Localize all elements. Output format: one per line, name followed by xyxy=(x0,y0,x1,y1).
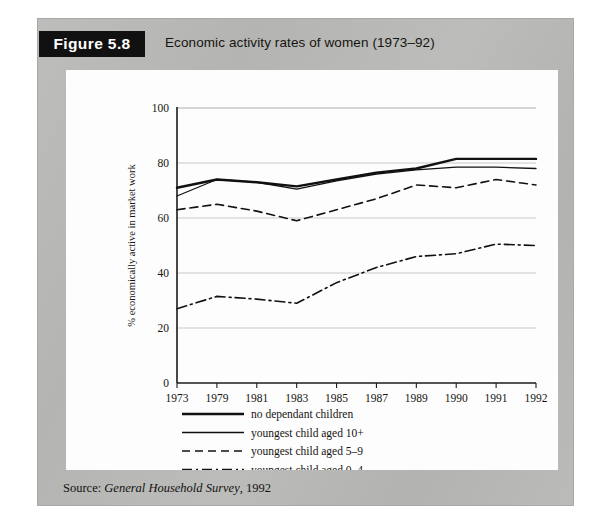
x-tick-label: 1989 xyxy=(405,392,428,404)
x-tick-label: 1985 xyxy=(325,392,348,404)
y-tick-label: 0 xyxy=(163,377,169,389)
y-tick-label: 20 xyxy=(158,322,170,334)
figure-caption: Economic activity rates of women (1973–9… xyxy=(165,35,435,50)
source-note: Source: General Household Survey, 1992 xyxy=(63,481,271,496)
legend-label: youngest child aged 10+ xyxy=(251,427,364,440)
y-tick-label: 60 xyxy=(158,212,170,224)
chart-y-axis-title: % economically active in market work xyxy=(126,164,137,327)
legend-label: youngest child aged 5–9 xyxy=(251,445,363,458)
source-prefix: Source: xyxy=(63,481,104,495)
chart-y-tick-labels: 020406080100 xyxy=(152,102,170,389)
x-tick-label: 1987 xyxy=(365,392,388,404)
y-tick-label: 100 xyxy=(152,102,170,114)
x-tick-label: 1979 xyxy=(205,392,228,404)
x-tick-label: 1981 xyxy=(245,392,268,404)
series-line xyxy=(177,244,536,309)
figure-number-badge: Figure 5.8 xyxy=(39,31,145,57)
x-tick-label: 1991 xyxy=(485,392,508,404)
x-tick-label: 1992 xyxy=(525,392,548,404)
figure-panel: Figure 5.8 Economic activity rates of wo… xyxy=(37,18,574,506)
chart-gridlines xyxy=(177,108,536,328)
chart-legend: no dependant childrenyoungest child aged… xyxy=(182,408,364,470)
x-tick-label: 1990 xyxy=(445,392,468,404)
line-chart: 020406080100 197319791981198319851987198… xyxy=(66,70,558,470)
chart-x-tick-labels: 1973197919811983198519871989199019911992 xyxy=(166,392,548,404)
x-tick-label: 1973 xyxy=(166,392,189,404)
legend-label: no dependant children xyxy=(251,408,353,421)
series-line xyxy=(177,180,536,221)
page-root: Figure 5.8 Economic activity rates of wo… xyxy=(0,0,601,525)
x-tick-label: 1983 xyxy=(285,392,308,404)
chart-series-layer xyxy=(177,159,536,309)
source-title: General Household Survey xyxy=(104,481,239,495)
source-suffix: , 1992 xyxy=(240,481,271,495)
y-tick-label: 40 xyxy=(158,267,170,279)
chart-card: 020406080100 197319791981198319851987198… xyxy=(66,70,558,470)
chart-axes xyxy=(177,107,536,383)
y-axis-title-text: % economically active in market work xyxy=(126,164,137,327)
legend-label: youngest child aged 0–4 xyxy=(251,464,363,471)
figure-header: Figure 5.8 Economic activity rates of wo… xyxy=(37,18,574,70)
y-tick-label: 80 xyxy=(158,157,170,169)
